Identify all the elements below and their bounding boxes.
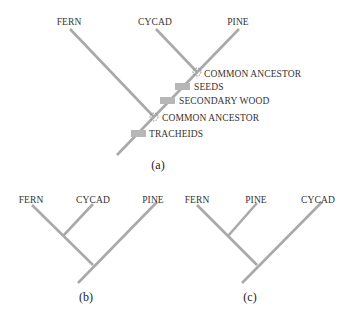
- character-box-tracheids: [131, 130, 146, 137]
- caption-a: (a): [151, 158, 164, 172]
- taxon-label-fern: FERN: [19, 195, 44, 205]
- phylogeny-figure: FERN CYCAD PINE COMMON ANCESTOR SEEDS SE…: [0, 0, 345, 315]
- taxon-label-cycad: CYCAD: [301, 195, 335, 205]
- taxon-label-fern: FERN: [57, 17, 82, 27]
- node-label-common-ancestor-upper: COMMON ANCESTOR: [204, 69, 302, 79]
- branch-fern: [70, 29, 154, 117]
- character-box-secondary-wood: [160, 97, 175, 104]
- node-label-common-ancestor-lower: COMMON ANCESTOR: [162, 113, 260, 123]
- branch-cycad: [63, 204, 93, 236]
- taxon-label-pine: PINE: [245, 195, 267, 205]
- branch-cycad-trunk: [242, 202, 322, 283]
- branch-cycad: [156, 29, 197, 72]
- character-label-seeds: SEEDS: [194, 82, 224, 92]
- character-label-secondary-wood: SECONDARY WOOD: [179, 96, 269, 106]
- character-box-seeds: [175, 83, 190, 90]
- character-label-tracheids: TRACHEIDS: [149, 129, 203, 139]
- branch-pine-trunk: [78, 202, 157, 283]
- taxon-label-cycad: CYCAD: [138, 17, 172, 27]
- tree-a: FERN CYCAD PINE COMMON ANCESTOR SEEDS SE…: [57, 17, 302, 172]
- taxon-label-fern: FERN: [185, 195, 210, 205]
- taxon-label-pine: PINE: [227, 17, 249, 27]
- taxon-label-pine: PINE: [142, 195, 164, 205]
- tree-c: FERN PINE CYCAD (c): [185, 195, 335, 304]
- caption-c: (c): [243, 290, 256, 304]
- caption-b: (b): [79, 290, 93, 304]
- branch-pine: [228, 203, 257, 236]
- tree-b: FERN CYCAD PINE (b): [19, 195, 164, 304]
- taxon-label-cycad: CYCAD: [76, 195, 110, 205]
